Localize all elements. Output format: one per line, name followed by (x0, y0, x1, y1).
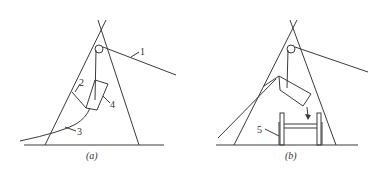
leader-3 (65, 127, 76, 131)
leader-5 (265, 129, 279, 136)
caption-b: (b) (285, 150, 297, 162)
label-5: 5 (257, 124, 262, 135)
frame-leg-left-a (45, 20, 106, 145)
stay-line-2 (72, 92, 86, 108)
frame-leg-right-b (290, 20, 336, 145)
support-frame-5 (279, 113, 322, 145)
stay-line-b (218, 79, 276, 138)
component-4 (86, 80, 108, 110)
label-3: 3 (77, 126, 82, 137)
caption-a: (a) (86, 150, 98, 162)
leader-1 (131, 52, 139, 57)
hoist-line-b (287, 50, 288, 88)
label-4: 4 (110, 99, 115, 110)
label-2: 2 (79, 77, 84, 88)
panel-a: 1 4 2 3 (a) (20, 20, 176, 162)
diagram: 1 4 2 3 (a) (0, 0, 390, 178)
hoist-line-a (95, 50, 96, 100)
panel-b: 5 (b) (216, 20, 368, 162)
component-tilted (279, 76, 311, 106)
arrowhead-icon (305, 114, 311, 120)
leader-4 (103, 96, 110, 103)
guy-rope-b (295, 47, 368, 72)
diagram-canvas: 1 4 2 3 (a) (0, 0, 390, 178)
label-1: 1 (140, 46, 145, 57)
